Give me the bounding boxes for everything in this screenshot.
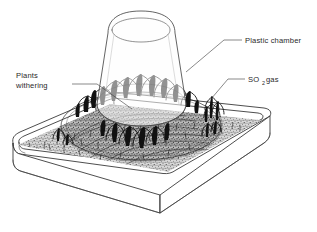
plastic-chamber [97, 11, 186, 126]
label-plants-withering-line1: Plants [16, 71, 38, 80]
figure-root: Plastic chamber SO 2 gas Plants witherin… [0, 0, 317, 232]
label-plastic-chamber: Plastic chamber [245, 36, 302, 45]
label-plants-withering: Plants withering [15, 71, 48, 90]
label-so2-gas: SO 2 gas [248, 75, 279, 86]
leader-so2-gas [211, 79, 245, 99]
diagram-canvas: Plastic chamber SO 2 gas Plants witherin… [0, 0, 317, 232]
label-so2-gas-tail: gas [266, 75, 279, 84]
leader-plastic-chamber [186, 40, 242, 72]
label-so2-gas-main: SO [248, 75, 259, 84]
chamber-body [97, 11, 186, 126]
label-so2-gas-subscript: 2 [262, 80, 265, 86]
label-plants-withering-line2: withering [15, 81, 48, 90]
